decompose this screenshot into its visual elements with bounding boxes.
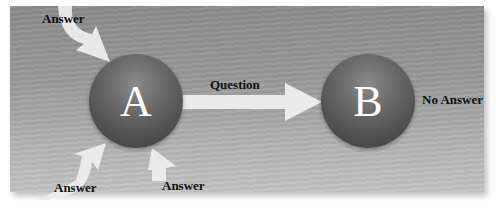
answer-label-bottom-left: Answer: [54, 180, 97, 196]
answer-label-top: Answer: [42, 11, 85, 27]
node-b-sphere: B: [321, 54, 415, 148]
node-a-letter: A: [89, 54, 183, 148]
answer-label-bottom-right: Answer: [162, 178, 205, 194]
no-answer-label: No Answer: [422, 92, 483, 108]
answer-arrow-bottom-right: [148, 148, 176, 181]
node-b-letter: B: [321, 54, 415, 148]
node-a-sphere: A: [89, 54, 183, 148]
question-label: Question: [210, 77, 260, 93]
